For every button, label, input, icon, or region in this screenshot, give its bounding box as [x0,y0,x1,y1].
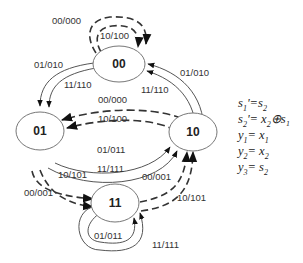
label-00-01-b: 11/110 [64,79,92,90]
svg-text:01: 01 [33,124,47,138]
state-00: 00 [93,46,145,82]
svg-text:11: 11 [109,196,122,210]
label-01-10-b: 11/111 [97,163,124,174]
label-11-10-a: 00/001 [142,171,171,182]
label-11-10-b: 10/101 [177,192,206,203]
equation-y3: y3= s2 [238,160,268,180]
label-01-10-a: 01/011 [97,144,125,155]
label-10-00-a: 01/010 [180,67,209,78]
state-11: 11 [91,184,139,222]
label-00-00-a: 00/000 [52,15,81,26]
label-01-11-a: 10/101 [58,169,87,180]
label-00-00-b: 10/100 [100,30,129,41]
label-10-01-b: 10/100 [98,113,127,124]
state-01: 01 [16,112,64,150]
label-11-11-b: 11/111 [152,239,179,250]
svg-text:00: 00 [112,57,126,71]
label-10-01-a: 00/000 [98,94,127,105]
state-10: 10 [169,113,217,151]
label-00-01-a: 01/010 [34,59,63,70]
svg-text:10: 10 [186,125,200,139]
label-10-00-b: 11/110 [141,84,169,95]
label-11-11-a: 01/011 [94,230,122,241]
label-01-11-b: 00/001 [24,187,53,198]
